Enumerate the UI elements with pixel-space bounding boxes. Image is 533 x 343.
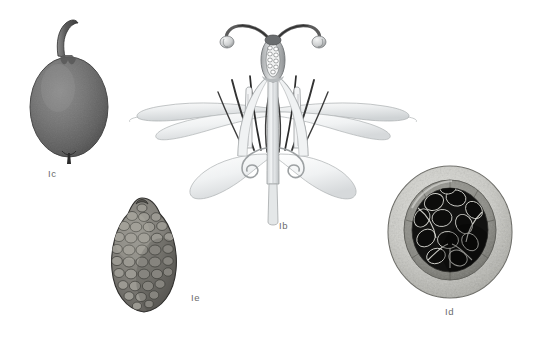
pedicel	[268, 184, 278, 225]
seed-highlight	[114, 212, 150, 260]
stigma-right	[312, 36, 326, 48]
figure-label-id: Id	[445, 306, 454, 317]
fruit-highlight	[41, 64, 75, 112]
stigma-left	[220, 36, 234, 48]
figure-label-ic: Ic	[48, 168, 57, 179]
figure-label-ie: Ie	[191, 292, 200, 303]
figure-id-fruit-cross-section: Id	[382, 160, 522, 318]
tepal-tip-right	[408, 117, 417, 122]
fruit-stalk	[57, 20, 78, 57]
figure-ic-ovoid-fruit: Ic	[20, 14, 128, 174]
figure-ie-reticulate-seed: Ie	[98, 192, 198, 322]
botanical-plate: Ic	[0, 0, 533, 343]
petal-lower-left	[190, 154, 270, 199]
tepal-tip-left	[129, 117, 138, 122]
petal-lower-right	[276, 154, 356, 199]
figure-label-ib: Ib	[279, 220, 288, 231]
style-junction	[265, 35, 281, 45]
